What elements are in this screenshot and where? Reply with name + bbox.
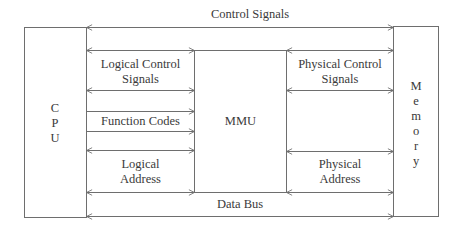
memory-letter: r (406, 139, 426, 154)
physical-control-signals-line2: Signals (287, 72, 393, 87)
logical-control-signals-label: Logical Control Signals (87, 57, 194, 87)
physical-control-signals-line1: Physical Control (287, 57, 393, 72)
memory-letter: y (406, 154, 426, 169)
memory-letter: m (406, 109, 426, 124)
cpu-letter: C (45, 101, 65, 116)
physical-control-signals-label: Physical Control Signals (287, 57, 393, 87)
logical-control-signals-line1: Logical Control (87, 57, 194, 72)
data-bus-label: Data Bus (200, 197, 280, 212)
cpu-letter: P (45, 116, 65, 131)
cpu-label: C P U (45, 101, 65, 146)
memory-label: M e m o r y (406, 79, 426, 169)
mmu-label: MMU (195, 114, 286, 129)
physical-address-line1: Physical (287, 157, 393, 172)
memory-letter: e (406, 94, 426, 109)
function-codes-label: Function Codes (87, 114, 194, 129)
memory-letter: o (406, 124, 426, 139)
logical-control-signals-line2: Signals (87, 72, 194, 87)
physical-address-line2: Address (287, 172, 393, 187)
logical-address-line1: Logical (87, 157, 194, 172)
physical-address-label: Physical Address (287, 157, 393, 187)
cpu-letter: U (45, 131, 65, 146)
memory-letter: M (406, 79, 426, 94)
logical-address-label: Logical Address (87, 157, 194, 187)
control-signals-label: Control Signals (200, 7, 300, 22)
logical-address-line2: Address (87, 172, 194, 187)
